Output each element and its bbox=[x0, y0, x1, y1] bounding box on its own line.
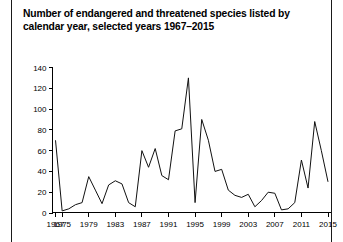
y-axis-tick-label: 40 bbox=[38, 167, 47, 176]
y-axis-tick-label: 140 bbox=[33, 64, 47, 73]
x-axis-tick-label: 2015 bbox=[319, 220, 337, 229]
data-series-line bbox=[56, 78, 329, 211]
x-axis-tick-label: 1983 bbox=[106, 220, 124, 229]
x-axis-tick-label: 1999 bbox=[213, 220, 231, 229]
chart-page: Number of endangered and threatened spec… bbox=[0, 0, 343, 242]
x-axis-tick-label: 1975 bbox=[53, 220, 71, 229]
y-axis-tick-label: 0 bbox=[42, 209, 47, 218]
y-axis-labels: 020406080100120140 bbox=[33, 64, 47, 219]
x-axis-tick-label: 1991 bbox=[160, 220, 178, 229]
y-axis-tick-label: 20 bbox=[38, 188, 47, 197]
y-axis-tick-label: 80 bbox=[38, 126, 47, 135]
x-axis-ticks bbox=[56, 213, 329, 217]
x-axis-tick-label: 2011 bbox=[293, 220, 311, 229]
x-axis-labels: 1967197519791983198719911995199920032007… bbox=[47, 220, 338, 229]
y-axis-tick-label: 120 bbox=[33, 84, 47, 93]
y-axis-tick-label: 100 bbox=[33, 105, 47, 114]
y-axis-ticks bbox=[49, 68, 53, 214]
x-axis-tick-label: 2003 bbox=[239, 220, 257, 229]
x-axis-tick-label: 1995 bbox=[186, 220, 204, 229]
y-axis-tick-label: 60 bbox=[38, 147, 47, 156]
x-axis-tick-label: 2007 bbox=[266, 220, 284, 229]
line-chart-svg: 020406080100120140 196719751979198319871… bbox=[0, 0, 343, 242]
chart-plot-area: 020406080100120140 196719751979198319871… bbox=[0, 0, 343, 242]
x-axis-tick-label: 1979 bbox=[80, 220, 98, 229]
x-axis-tick-label: 1987 bbox=[133, 220, 151, 229]
